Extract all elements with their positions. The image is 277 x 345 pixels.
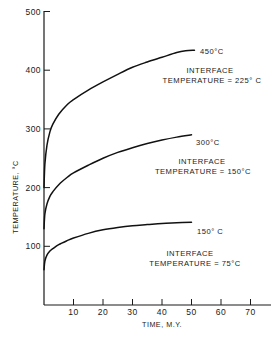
x-ticks: 10203040506070 xyxy=(68,299,255,317)
y-tick-label: 200 xyxy=(26,183,41,193)
y-ticks: 100200300400500 xyxy=(26,7,50,252)
x-tick-label: 20 xyxy=(98,307,108,317)
x-tick-label: 10 xyxy=(68,307,78,317)
y-tick-label: 500 xyxy=(26,7,41,17)
x-tick-label: 70 xyxy=(245,307,255,317)
interface-label-225: INTERFACE xyxy=(186,66,233,75)
curve-1 xyxy=(44,135,192,229)
interface-temp-75: TEMPERATURE = 75°C xyxy=(149,259,240,268)
x-tick-label: 40 xyxy=(157,307,167,317)
x-tick-label: 30 xyxy=(127,307,137,317)
y-tick-label: 300 xyxy=(26,124,41,134)
curve-label-450: 450°C xyxy=(200,47,224,56)
interface-label-150: INTERFACE xyxy=(178,157,225,166)
x-axis-title: TIME, M.Y. xyxy=(142,320,182,329)
interface-temp-150: TEMPERATURE = 150°C xyxy=(155,167,251,176)
x-tick-label: 60 xyxy=(216,307,226,317)
x-tick-label: 50 xyxy=(186,307,196,317)
temperature-time-chart: 100200300400500 10203040506070 TEMPERATU… xyxy=(0,0,277,345)
curve-label-300: 300°C xyxy=(196,138,220,147)
y-axis-title: TEMPERATURE, °C xyxy=(11,160,20,233)
y-tick-label: 400 xyxy=(26,65,41,75)
curve-label-150: 150° C xyxy=(197,227,223,236)
y-tick-label: 100 xyxy=(26,241,41,251)
interface-label-75: INTERFACE xyxy=(166,249,213,258)
interface-temp-225: TEMPERATURE = 225° C xyxy=(163,76,262,85)
